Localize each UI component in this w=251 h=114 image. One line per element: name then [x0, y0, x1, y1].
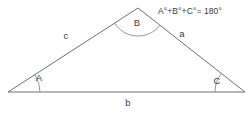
side-label-a: a [179, 29, 184, 39]
angle-label-c: C [213, 76, 220, 86]
angle-label-a: A [36, 73, 43, 83]
angle-label-b: B [134, 18, 141, 28]
triangle-outline [8, 8, 245, 92]
triangle-diagram: A B C c a b A°+B°+C°= 180° [0, 0, 251, 114]
side-label-b: b [125, 98, 130, 108]
angle-sum-equation: A°+B°+C°= 180° [158, 7, 222, 16]
side-label-c: c [64, 31, 69, 41]
